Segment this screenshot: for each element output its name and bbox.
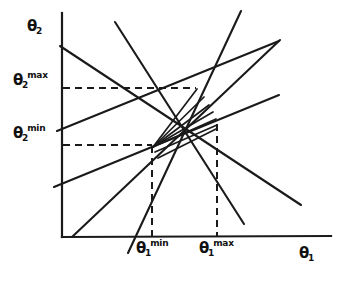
- tick-theta2-max-sub: 2: [22, 80, 28, 90]
- x-axis-label: θ1: [299, 245, 315, 261]
- tick-label-theta2-max: θ2max: [13, 72, 50, 88]
- feasible-region-hatching: [153, 89, 217, 158]
- tick-theta1-max-sup: max: [213, 238, 234, 248]
- tick-theta1-min-sup: min: [150, 238, 168, 248]
- tick-label-theta2-min: θ2min: [13, 125, 47, 141]
- x-axis-line: [62, 236, 331, 237]
- constraint-1-descending-steep: [115, 22, 244, 224]
- constraint-4-ascending-medium: [72, 40, 280, 237]
- y-axis-label-sub: 2: [36, 26, 42, 36]
- tick-label-theta1-min: θ1min: [136, 240, 170, 256]
- tick-theta2-min-sub: 2: [22, 133, 28, 143]
- x-axis-label-sub: 1: [308, 253, 314, 263]
- tick-theta1-min-sub: 1: [145, 248, 151, 258]
- constraint-3-ascending-steep: [128, 11, 241, 253]
- axes-group: [62, 13, 331, 237]
- figure-container: θ2 θ1 θ2max θ2min θ1min θ1max: [0, 0, 340, 283]
- y-axis-label: θ2: [27, 18, 43, 34]
- tick-theta2-min-sup: min: [27, 123, 45, 133]
- tick-theta1-max-sub: 1: [208, 248, 214, 258]
- tick-label-theta1-max: θ1max: [199, 240, 236, 256]
- tick-theta2-max-sup: max: [27, 70, 48, 80]
